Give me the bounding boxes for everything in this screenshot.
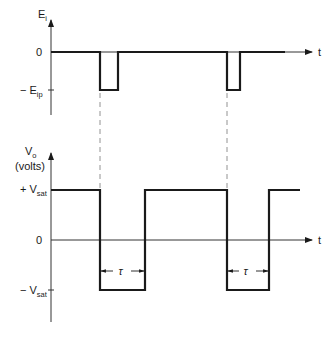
input-waveform <box>51 52 285 90</box>
svg-text:τ: τ <box>119 265 124 277</box>
pos-sat-label: + Vsat <box>20 183 48 198</box>
tau-indicator-1: τ <box>101 265 144 277</box>
top-neg-label: − Eip <box>20 84 43 99</box>
top-x-label: t <box>318 46 321 58</box>
bottom-zero-label: 0 <box>36 234 42 246</box>
bottom-y-label: Vo <box>25 145 37 160</box>
neg-sat-label: − Vsat <box>20 284 48 299</box>
svg-text:τ: τ <box>244 265 249 277</box>
trigger-guides <box>100 93 227 188</box>
diagram-canvas: Ei 0 − Eip t τ τ Vo <box>0 0 336 337</box>
bottom-y-unit: (volts) <box>15 160 45 172</box>
top-zero-label: 0 <box>36 46 42 58</box>
input-pulse-plot: Ei 0 − Eip t <box>20 8 321 115</box>
bottom-x-label: t <box>318 234 321 246</box>
output-voltage-plot: τ τ Vo (volts) + Vsat 0 − Vsat t <box>15 145 321 322</box>
top-y-label: Ei <box>38 8 47 23</box>
tau-indicator-2: τ <box>228 265 268 277</box>
